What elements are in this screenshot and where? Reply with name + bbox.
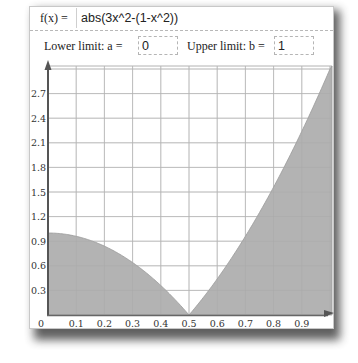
y-tick-label: 1.5 bbox=[31, 187, 46, 198]
y-tick-label: 0.6 bbox=[31, 260, 46, 271]
y-tick-label: 1.8 bbox=[31, 162, 46, 173]
x-tick-label: 0.5 bbox=[181, 318, 196, 329]
y-tick-label: 0.9 bbox=[31, 236, 46, 247]
y-tick-label: 0.3 bbox=[31, 285, 46, 296]
x-tick-label: 0.1 bbox=[69, 318, 84, 329]
function-plot: 00.10.20.30.40.50.60.70.80.9 0.30.60.91.… bbox=[0, 0, 358, 363]
y-tick-label: 1.2 bbox=[31, 211, 46, 222]
x-tick-label: 0.3 bbox=[125, 318, 140, 329]
x-tick-label: 0.2 bbox=[97, 318, 112, 329]
y-tick-label: 2.4 bbox=[31, 113, 46, 124]
x-tick-label: 0 bbox=[38, 318, 44, 329]
x-tick-label: 0.8 bbox=[266, 318, 281, 329]
x-tick-label: 0.4 bbox=[153, 318, 168, 329]
shaded-area bbox=[48, 66, 332, 315]
x-tick-label: 0.7 bbox=[238, 318, 253, 329]
y-axis-arrow-icon bbox=[45, 60, 52, 70]
y-tick-labels: 0.30.60.91.21.51.82.12.42.7 bbox=[31, 88, 46, 296]
x-tick-label: 0.6 bbox=[210, 318, 225, 329]
x-tick-label: 0.9 bbox=[294, 318, 309, 329]
y-tick-label: 2.7 bbox=[31, 88, 46, 99]
y-tick-label: 2.1 bbox=[31, 137, 46, 148]
x-tick-labels: 00.10.20.30.40.50.60.70.80.9 bbox=[38, 318, 309, 329]
